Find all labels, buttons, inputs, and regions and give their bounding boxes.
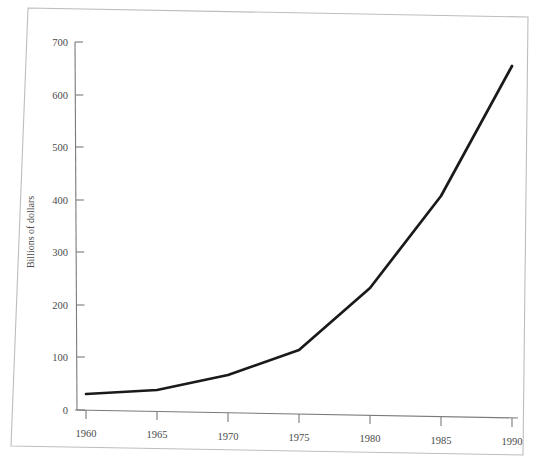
y-axis-tick-labels: 700 600 500 400 300 200 100 0	[52, 37, 68, 416]
y-axis-title: Billions of dollars	[25, 196, 36, 268]
data-series-line	[86, 66, 512, 394]
y-tick-label-400: 400	[52, 195, 68, 206]
y-tick-label-300: 300	[52, 247, 68, 258]
line-chart-figure: 700 600 500 400 300 200 100 0 1960 1965 …	[0, 0, 546, 471]
x-axis-tick-labels: 1960 1965 1970 1975 1980 1985 1990	[76, 428, 523, 447]
y-tick-label-0: 0	[63, 405, 68, 416]
x-tick-label-1965: 1965	[147, 429, 168, 440]
x-axis-ticks	[86, 410, 512, 427]
x-axis-line	[75, 410, 518, 418]
x-tick-label-1970: 1970	[218, 431, 239, 442]
x-tick-label-1980: 1980	[360, 433, 381, 444]
x-tick-label-1990: 1990	[502, 436, 523, 447]
y-tick-label-500: 500	[52, 142, 68, 153]
scanned-page: 700 600 500 400 300 200 100 0 1960 1965 …	[0, 0, 546, 471]
x-tick-label-1985: 1985	[431, 435, 452, 446]
y-tick-label-600: 600	[52, 90, 68, 101]
x-tick-label-1960: 1960	[76, 428, 97, 439]
y-tick-label-200: 200	[52, 300, 68, 311]
x-tick-label-1975: 1975	[289, 432, 310, 443]
y-axis-line	[75, 42, 77, 410]
y-tick-label-700: 700	[52, 37, 68, 48]
page-frame-border	[11, 8, 528, 455]
y-tick-label-100: 100	[52, 352, 68, 363]
